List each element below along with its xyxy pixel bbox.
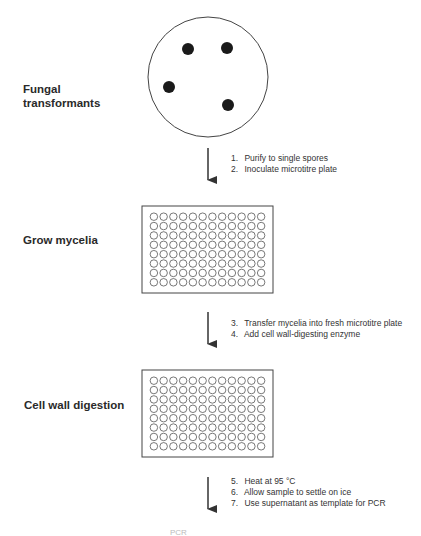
well <box>199 396 207 404</box>
well <box>228 405 236 413</box>
well <box>209 414 217 422</box>
well <box>150 377 158 385</box>
well <box>248 386 256 394</box>
well <box>238 241 246 249</box>
well <box>228 213 236 221</box>
well <box>228 414 236 422</box>
well <box>228 269 236 277</box>
well <box>170 424 178 432</box>
step-list-3: 5. Heat at 95 °C 6. Allow sample to sett… <box>231 476 386 509</box>
well <box>179 279 187 287</box>
stage-label-line: Fungal <box>23 82 100 96</box>
well <box>170 222 178 230</box>
well <box>189 396 197 404</box>
well <box>179 241 187 249</box>
well <box>238 433 246 441</box>
well <box>160 424 168 432</box>
well <box>179 377 187 385</box>
well <box>218 241 226 249</box>
well <box>228 232 236 240</box>
well <box>179 260 187 268</box>
well <box>199 377 207 385</box>
step-list-1: 1. Purify to single spores 2. Inoculate … <box>231 153 337 175</box>
well <box>228 279 236 287</box>
colony <box>222 99 234 111</box>
well <box>199 279 207 287</box>
well <box>257 260 265 268</box>
well <box>248 443 256 451</box>
well <box>189 443 197 451</box>
well <box>150 222 158 230</box>
well <box>150 260 158 268</box>
step-item: 4. Add cell wall-digesting enzyme <box>231 329 402 340</box>
well <box>248 424 256 432</box>
well <box>228 433 236 441</box>
microtitre-plate-digestion <box>142 370 273 457</box>
well <box>150 250 158 258</box>
well <box>199 405 207 413</box>
well <box>199 433 207 441</box>
well <box>209 269 217 277</box>
well <box>160 279 168 287</box>
well <box>150 443 158 451</box>
well <box>150 213 158 221</box>
well <box>170 241 178 249</box>
well <box>160 377 168 385</box>
well <box>248 241 256 249</box>
well <box>257 250 265 258</box>
well <box>189 386 197 394</box>
well <box>248 232 256 240</box>
well <box>218 414 226 422</box>
well <box>150 386 158 394</box>
well <box>179 424 187 432</box>
well <box>238 396 246 404</box>
well <box>209 386 217 394</box>
well <box>170 386 178 394</box>
well <box>209 433 217 441</box>
well <box>228 260 236 268</box>
well <box>170 269 178 277</box>
step-item: 6. Allow sample to settle on ice <box>231 487 386 498</box>
well <box>257 213 265 221</box>
well <box>199 232 207 240</box>
step-list-2: 3. Transfer mycelia into fresh microtitr… <box>231 318 402 340</box>
well <box>170 396 178 404</box>
well <box>209 232 217 240</box>
well <box>209 222 217 230</box>
well <box>248 250 256 258</box>
well <box>238 213 246 221</box>
well <box>228 386 236 394</box>
well <box>160 396 168 404</box>
well <box>209 396 217 404</box>
stage-label-cell-wall-digestion: Cell wall digestion <box>24 398 124 412</box>
well <box>248 396 256 404</box>
well <box>189 232 197 240</box>
well <box>228 250 236 258</box>
well <box>248 260 256 268</box>
well <box>199 241 207 249</box>
colony <box>182 43 194 55</box>
well <box>160 232 168 240</box>
well <box>199 424 207 432</box>
well <box>238 424 246 432</box>
well <box>238 222 246 230</box>
well <box>218 396 226 404</box>
well <box>189 213 197 221</box>
well <box>248 414 256 422</box>
well <box>248 433 256 441</box>
well <box>257 405 265 413</box>
well <box>189 260 197 268</box>
well <box>150 396 158 404</box>
well <box>199 414 207 422</box>
well <box>209 213 217 221</box>
well <box>257 414 265 422</box>
well <box>189 241 197 249</box>
well <box>179 386 187 394</box>
well <box>179 213 187 221</box>
well <box>160 269 168 277</box>
well <box>179 232 187 240</box>
well <box>257 241 265 249</box>
well <box>189 222 197 230</box>
well <box>257 386 265 394</box>
well <box>179 443 187 451</box>
